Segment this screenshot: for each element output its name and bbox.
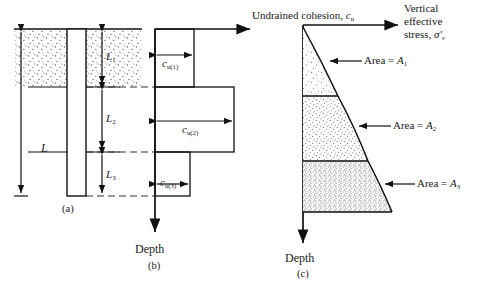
panel-b-axis-bottom-label: Depth bbox=[135, 243, 164, 257]
area-3-symbol: A bbox=[450, 177, 457, 189]
area-3-subscript: 3 bbox=[457, 183, 460, 190]
area-1-subscript: 1 bbox=[404, 60, 407, 67]
undrained-cohesion-text: Undrained cohesion, bbox=[252, 9, 346, 21]
panel-a-total-length-label: L bbox=[41, 142, 48, 156]
panel-b-caption: (b) bbox=[148, 260, 160, 272]
area-3-text: Area = bbox=[417, 177, 450, 189]
panel-c-axis-top-label: Vertical effective stress, σ′v bbox=[404, 2, 476, 42]
effective-text: effective bbox=[404, 15, 442, 27]
panel-c-axis-bottom-label: Depth bbox=[285, 252, 314, 266]
label-L2-subscript: 2 bbox=[112, 118, 115, 125]
sigma-subscript: v bbox=[442, 34, 445, 41]
panel-a-segment-2-label: L2 bbox=[106, 112, 116, 126]
label-cu1-subscript: u(1) bbox=[167, 63, 178, 70]
area-1-text: Area = bbox=[364, 54, 397, 66]
figure-svg bbox=[0, 0, 477, 281]
label-cu2-subscript: u(2) bbox=[187, 129, 198, 136]
vertical-text: Vertical bbox=[404, 2, 438, 14]
panel-c-area-3-label: Area = A3 bbox=[417, 177, 460, 191]
panel-a-segment-1-label: L1 bbox=[106, 50, 116, 64]
panel-a-segment-3-label: L3 bbox=[106, 168, 116, 182]
area-2-text: Area = bbox=[393, 119, 426, 131]
panel-a-caption: (a) bbox=[62, 203, 74, 215]
area-2-subscript: 2 bbox=[433, 125, 436, 132]
figure-canvas: L L1 L2 L3 (a) cu(1) cu(2) cu(3) Undrain… bbox=[0, 0, 477, 281]
area-1-symbol: A bbox=[397, 54, 404, 66]
label-L1-subscript: 1 bbox=[112, 56, 115, 63]
area-2-symbol: A bbox=[426, 119, 433, 131]
panel-b-bar-1-label: cu(1) bbox=[162, 57, 178, 71]
label-L3-subscript: 3 bbox=[112, 174, 115, 181]
stress-text: stress, bbox=[404, 28, 434, 40]
panel-a-graphics bbox=[14, 29, 155, 196]
panel-c-caption: (c) bbox=[297, 268, 309, 280]
panel-b-axis-top-label: Undrained cohesion, cu bbox=[252, 9, 348, 23]
label-cu3-subscript: u(3) bbox=[165, 182, 176, 189]
panel-c-area-2-label: Area = A2 bbox=[393, 119, 436, 133]
panel-b-bar-3-label: cu(3) bbox=[160, 176, 176, 190]
panel-c-area-1-label: Area = A1 bbox=[364, 54, 407, 68]
cu-subscript: u bbox=[351, 15, 354, 22]
panel-b-bar-2-label: cu(2) bbox=[182, 123, 198, 137]
label-L: L bbox=[41, 141, 48, 155]
